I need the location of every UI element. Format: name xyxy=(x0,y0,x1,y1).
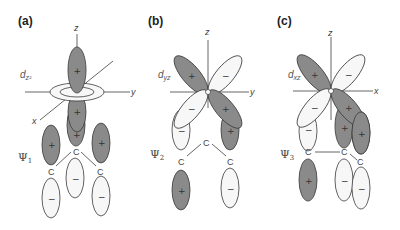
y-axis-label: y xyxy=(130,87,136,97)
sign-minus: − xyxy=(72,174,80,184)
sign-plus: + xyxy=(74,66,82,76)
sign-plus: + xyxy=(305,176,313,186)
sign-plus: + xyxy=(188,71,196,81)
sign-plus: + xyxy=(98,138,106,148)
carbon-atom: C xyxy=(227,157,234,167)
carbon-atom: C xyxy=(178,157,185,167)
sign-minus: − xyxy=(358,184,366,194)
x-axis-label: x xyxy=(31,116,37,126)
orbital-label-dxz: dxz xyxy=(288,69,301,81)
panel-b: (b) z y dyz − + + − − + C C C + xyxy=(148,14,255,210)
z-axis-label: z xyxy=(327,28,333,38)
carbon-atom: C xyxy=(357,157,364,167)
orbital-diagram-svg: (a) z y x dz² + + + + + C xyxy=(0,0,400,230)
sign-plus: + xyxy=(341,123,349,133)
sign-minus: − xyxy=(188,104,196,114)
bond xyxy=(212,144,226,156)
sign-plus: + xyxy=(178,186,186,196)
sign-minus: − xyxy=(227,184,235,194)
sign-plus: + xyxy=(358,129,366,139)
y-axis-label: y xyxy=(249,87,255,97)
bond xyxy=(350,154,357,160)
z-axis-label: z xyxy=(204,27,210,37)
sign-plus: + xyxy=(345,103,353,113)
sign-minus: − xyxy=(48,194,56,204)
panel-a-label: (a) xyxy=(18,14,33,28)
sign-plus: + xyxy=(48,140,56,150)
psi-label: Ψ1 xyxy=(18,151,32,165)
sign-plus: + xyxy=(222,104,230,114)
carbon-atom: C xyxy=(73,147,80,157)
sign-plus: + xyxy=(73,130,81,140)
nucleus xyxy=(206,90,211,95)
panel-c-label: (c) xyxy=(277,14,292,28)
psi-label: Ψ3 xyxy=(280,148,294,162)
carbon-atom: C xyxy=(305,147,312,157)
carbon-atom: C xyxy=(48,167,55,177)
z-axis-label: z xyxy=(73,23,79,33)
sign-minus: − xyxy=(222,71,230,81)
sign-plus: + xyxy=(74,107,82,117)
sign-minus: − xyxy=(311,103,319,113)
psi-label: Ψ2 xyxy=(150,148,164,162)
sign-plus: + xyxy=(311,70,319,80)
orbital-label-dyz: dyz xyxy=(158,69,171,82)
sign-minus: − xyxy=(345,70,353,80)
bond xyxy=(187,144,201,156)
panel-a: (a) z y x dz² + + + + + C xyxy=(18,14,136,218)
orbital-label-dz2: dz² xyxy=(20,69,32,81)
panel-c: (c) z x dxz + − − + − + + C C C xyxy=(277,14,379,209)
sign-minus: − xyxy=(341,176,349,186)
carbon-atom: C xyxy=(97,167,104,177)
sign-minus: − xyxy=(98,192,106,202)
orbital-diagram: (a) z y x dz² + + + + + C xyxy=(0,0,400,230)
carbon-atom: C xyxy=(341,147,348,157)
nucleus xyxy=(329,89,334,94)
sign-minus: − xyxy=(305,125,313,135)
carbon-atom: C xyxy=(203,138,210,148)
x-axis-label: x xyxy=(373,86,379,96)
panel-b-label: (b) xyxy=(148,14,163,28)
